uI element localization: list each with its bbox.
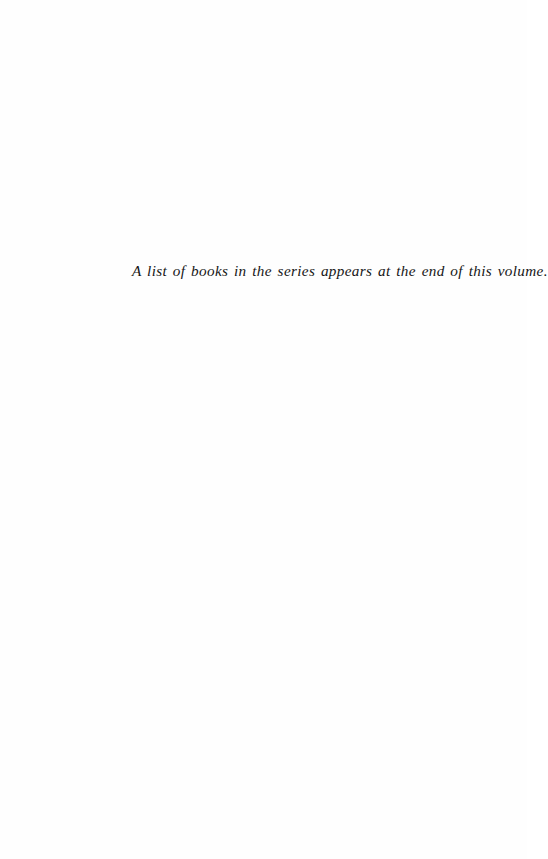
series-note-text: A list of books in the series appears at… [132,262,548,280]
